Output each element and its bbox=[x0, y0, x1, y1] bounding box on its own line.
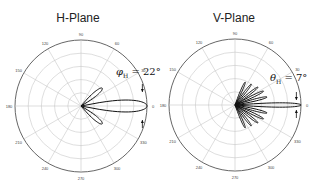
angle-tick-label: 0 bbox=[152, 104, 155, 109]
h-plane-beamwidth-annotation: φH = 22° bbox=[116, 66, 161, 79]
angle-tick-label: 300 bbox=[114, 166, 121, 171]
angle-tick-label: 0 bbox=[306, 103, 309, 108]
angle-tick-label: 270 bbox=[78, 176, 85, 181]
angle-tick-label: 150 bbox=[15, 68, 22, 73]
angle-tick-label: 120 bbox=[196, 40, 203, 45]
angle-tick-label: 240 bbox=[42, 166, 49, 171]
angle-tick-label: 60 bbox=[115, 41, 120, 46]
pattern-lobe bbox=[81, 88, 102, 106]
angle-tick-label: 60 bbox=[269, 40, 274, 45]
grid-spoke bbox=[81, 49, 114, 106]
grid-spoke bbox=[81, 106, 114, 163]
grid-spoke bbox=[202, 105, 235, 162]
angle-tick-label: 30 bbox=[295, 67, 300, 72]
angle-tick-label: 180 bbox=[160, 103, 167, 108]
angle-tick-label: 210 bbox=[15, 140, 22, 145]
pattern-lobe bbox=[81, 106, 102, 124]
angle-tick-label: 90 bbox=[233, 31, 238, 36]
angle-tick-label: 330 bbox=[294, 139, 301, 144]
angle-tick-label: 120 bbox=[42, 41, 49, 46]
angle-tick-label: 240 bbox=[196, 165, 203, 170]
angle-tick-label: 90 bbox=[79, 32, 84, 37]
h-plane-panel: H-Plane 0306090120150180210240270300330 … bbox=[0, 0, 156, 186]
v-plane-beamwidth-annotation: θH = 7° bbox=[270, 72, 307, 85]
grid-spoke bbox=[48, 106, 81, 163]
v-plane-panel: V-Plane 0306090120150180210240270300330 … bbox=[156, 0, 312, 186]
angle-tick-label: 330 bbox=[140, 140, 147, 145]
angle-tick-label: 300 bbox=[268, 165, 275, 170]
arrowhead bbox=[141, 120, 144, 123]
grid-spoke bbox=[24, 106, 81, 139]
angle-tick-label: 180 bbox=[6, 104, 13, 109]
h-plane-polar-plot: 0306090120150180210240270300330 bbox=[0, 0, 156, 186]
v-plane-polar-plot: 0306090120150180210240270300330 bbox=[156, 0, 312, 186]
grid-spoke bbox=[24, 73, 81, 106]
grid-spoke bbox=[178, 105, 235, 138]
arrowhead bbox=[295, 97, 298, 100]
angle-tick-label: 210 bbox=[169, 139, 176, 144]
angle-tick-label: 270 bbox=[232, 175, 239, 180]
grid-spoke bbox=[202, 48, 235, 105]
annotation-value: = 7° bbox=[281, 72, 307, 83]
grid-spoke bbox=[178, 72, 235, 105]
annotation-symbol: φ bbox=[116, 66, 123, 77]
angle-tick-label: 150 bbox=[169, 67, 176, 72]
arrowhead bbox=[141, 89, 144, 92]
grid-spoke bbox=[48, 49, 81, 106]
arrowhead bbox=[295, 110, 298, 113]
